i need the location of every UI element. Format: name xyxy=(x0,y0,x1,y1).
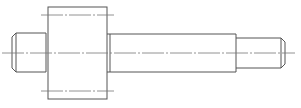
left-journal xyxy=(12,33,46,72)
shaft-drawing xyxy=(0,0,301,108)
